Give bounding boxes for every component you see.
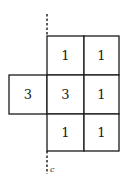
cell-number: 3 — [61, 87, 69, 102]
axis-label: c — [50, 165, 55, 174]
cell-number: 1 — [61, 48, 69, 63]
cell-number: 1 — [97, 87, 105, 102]
grid-diagram: 1133111 c — [0, 0, 129, 183]
cell-number: 1 — [97, 125, 105, 140]
cell-number: 1 — [97, 48, 105, 63]
cell-number: 1 — [61, 125, 69, 140]
cell-number: 3 — [24, 87, 32, 102]
